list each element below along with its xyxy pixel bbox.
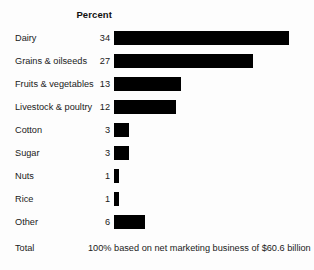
chart-rows: Dairy34Grains & oilseeds27Fruits & veget… [0, 30, 314, 237]
chart-row: Other6 [0, 214, 314, 237]
category-value: 3 [0, 125, 110, 135]
chart-row: Livestock & poultry12 [0, 99, 314, 122]
bar [114, 100, 176, 114]
bar [114, 54, 253, 68]
chart-row: Cotton3 [0, 122, 314, 145]
chart-row: Fruits & vegetables13 [0, 76, 314, 99]
bar-chart: Percent Dairy34Grains & oilseeds27Fruits… [0, 0, 314, 270]
percent-column-header: Percent [0, 9, 112, 20]
bar [114, 146, 129, 160]
bar [114, 192, 119, 206]
category-value: 6 [0, 217, 110, 227]
category-value: 13 [0, 79, 110, 89]
category-value: 27 [0, 56, 110, 66]
bar [114, 31, 289, 45]
total-row: Total 100% based on net marketing busine… [0, 243, 314, 259]
total-note: 100% based on net marketing business of … [88, 243, 311, 253]
category-value: 34 [0, 33, 110, 43]
bar [114, 123, 129, 137]
bar [114, 215, 145, 229]
category-value: 1 [0, 171, 110, 181]
bar [114, 169, 119, 183]
category-value: 1 [0, 194, 110, 204]
chart-row: Dairy34 [0, 30, 314, 53]
chart-row: Nuts1 [0, 168, 314, 191]
total-label: Total [15, 243, 34, 253]
category-value: 12 [0, 102, 110, 112]
chart-row: Grains & oilseeds27 [0, 53, 314, 76]
chart-row: Rice1 [0, 191, 314, 214]
chart-row: Sugar3 [0, 145, 314, 168]
category-value: 3 [0, 148, 110, 158]
bar [114, 77, 181, 91]
